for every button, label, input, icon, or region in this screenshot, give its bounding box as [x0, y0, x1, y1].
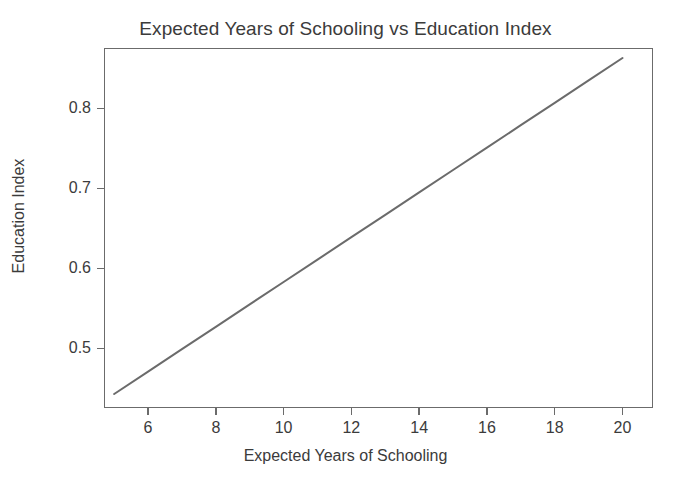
- x-tick-mark: [418, 408, 419, 415]
- y-tick-mark: [97, 268, 104, 269]
- x-tick-mark: [351, 408, 352, 415]
- x-tick-label: 14: [399, 418, 439, 438]
- y-tick-mark: [97, 108, 104, 109]
- y-tick-label: 0.7: [47, 178, 91, 198]
- x-tick-label: 10: [264, 418, 304, 438]
- chart-figure: Expected Years of Schooling vs Education…: [0, 0, 691, 487]
- y-tick-label: 0.8: [47, 98, 91, 118]
- x-axis-label: Expected Years of Schooling: [0, 446, 691, 466]
- y-tick-label: 0.5: [47, 338, 91, 358]
- data-series-line: [114, 58, 622, 394]
- x-tick-mark: [554, 408, 555, 415]
- x-tick-label: 8: [196, 418, 236, 438]
- chart-title: Expected Years of Schooling vs Education…: [0, 17, 691, 41]
- x-tick-label: 6: [128, 418, 168, 438]
- x-tick-mark: [486, 408, 487, 415]
- x-tick-mark: [147, 408, 148, 415]
- x-tick-label: 16: [467, 418, 507, 438]
- y-tick-label: 0.6: [47, 258, 91, 278]
- plot-canvas: [104, 48, 653, 408]
- y-axis-label: Education Index: [9, 136, 29, 296]
- x-tick-mark: [215, 408, 216, 415]
- x-tick-label: 12: [331, 418, 371, 438]
- x-tick-label: 20: [603, 418, 643, 438]
- y-tick-mark: [97, 188, 104, 189]
- y-tick-mark: [97, 348, 104, 349]
- x-tick-label: 18: [535, 418, 575, 438]
- x-tick-mark: [283, 408, 284, 415]
- x-tick-mark: [622, 408, 623, 415]
